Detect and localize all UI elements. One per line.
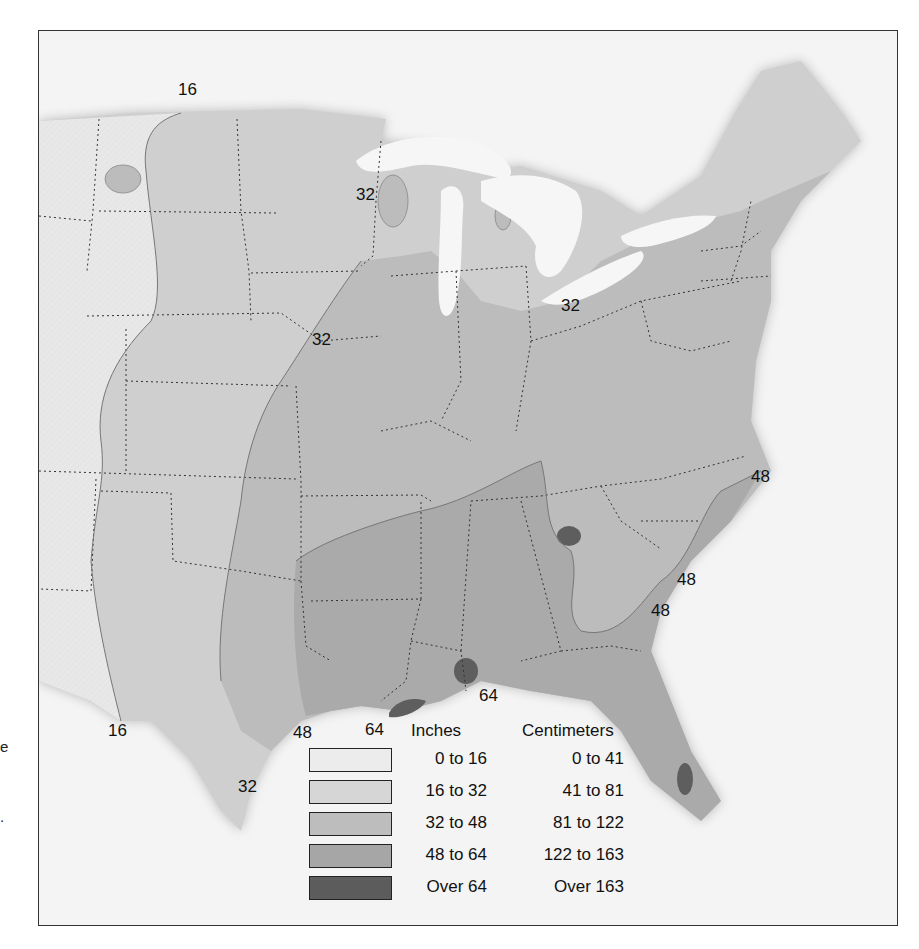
- region-over-64-alabama: [454, 658, 478, 684]
- legend-cm-41-81: 41 to 81: [509, 781, 624, 801]
- cropped-caption-fragment-2: .: [0, 808, 4, 825]
- contour-label-north-16: 16: [178, 81, 197, 98]
- legend-row-48-64: 48 to 64 122 to 163: [309, 844, 629, 868]
- legend-inches-48-64: 48 to 64: [399, 845, 487, 865]
- contour-label-gulf-64-al: 64: [479, 687, 498, 704]
- cropped-caption-fragment-1: e: [0, 738, 8, 755]
- legend-row-0-16: 0 to 16 0 to 41: [309, 748, 629, 772]
- legend-swatch-over-64: [309, 876, 392, 900]
- contour-label-gulf-48-tx: 48: [293, 724, 312, 741]
- contour-label-iowa-32: 32: [312, 331, 331, 348]
- contour-label-lake-erie-32: 32: [561, 297, 580, 314]
- contour-label-sc-coast-48-upper: 48: [677, 571, 696, 588]
- legend-cm-0-41: 0 to 41: [509, 749, 624, 769]
- region-32-48-island-nd: [105, 165, 141, 193]
- region-32-48-island-wi: [378, 175, 408, 227]
- region-over-64-florida: [677, 763, 693, 795]
- contour-label-wisconsin-32: 32: [356, 186, 375, 203]
- legend-row-32-48: 32 to 48 81 to 122: [309, 812, 629, 836]
- legend-row-over-64: Over 64 Over 163: [309, 876, 629, 900]
- legend-swatch-48-64: [309, 844, 392, 868]
- contour-label-texas-32: 32: [238, 778, 257, 795]
- legend-swatch-16-32: [309, 780, 392, 804]
- legend-row-16-32: 16 to 32 41 to 81: [309, 780, 629, 804]
- legend-cm-81-122: 81 to 122: [509, 813, 624, 833]
- contour-label-nc-coast-48: 48: [751, 468, 770, 485]
- map-frame: 16 32 32 32 48 48 48 64 64 48 16 32 Inch…: [38, 30, 898, 926]
- region-over-64-appalachian: [557, 526, 581, 546]
- legend-inches-over-64: Over 64: [399, 877, 487, 897]
- legend-swatch-32-48: [309, 812, 392, 836]
- contour-label-sc-coast-48-lower: 48: [651, 602, 670, 619]
- legend-inches-0-16: 0 to 16: [399, 749, 487, 769]
- legend-cm-over-163: Over 163: [509, 877, 624, 897]
- legend-header-centimeters: Centimeters: [522, 721, 614, 741]
- contour-label-gulf-64-la: 64: [365, 721, 384, 738]
- contour-label-texas-16: 16: [108, 722, 127, 739]
- legend-inches-32-48: 32 to 48: [399, 813, 487, 833]
- legend-inches-16-32: 16 to 32: [399, 781, 487, 801]
- legend-swatch-0-16: [309, 748, 392, 772]
- legend-header-inches: Inches: [411, 721, 461, 741]
- legend-cm-122-163: 122 to 163: [509, 845, 624, 865]
